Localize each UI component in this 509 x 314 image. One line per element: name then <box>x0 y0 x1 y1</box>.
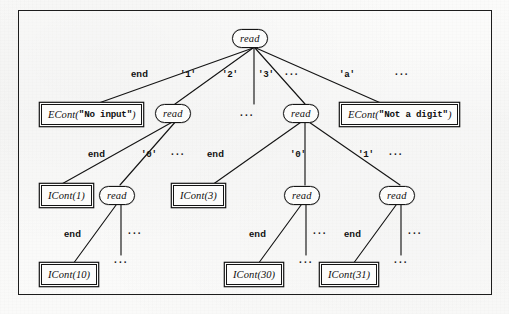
placeholder-below-icont-31: ··· <box>394 257 409 268</box>
icont-1-name: ICont <box>48 190 72 201</box>
icont-3-name: ICont <box>180 190 204 201</box>
placeholder-branch-2: ··· <box>240 110 255 121</box>
econt-not-digit-name: ECont <box>348 109 375 120</box>
edge-label-root-3-dots: ··· <box>285 69 300 80</box>
edge-label-root-1: '1' <box>180 69 196 80</box>
edge-label-l1-0-dots: ··· <box>128 228 143 239</box>
node-read-level2-digit10[interactable]: read <box>99 186 135 205</box>
econt-not-digit-close-paren: ) <box>448 109 452 120</box>
node-icont-30[interactable]: ICont(30) <box>226 264 282 285</box>
figure-canvas: read end '1' '2' '3' ··· 'a' ··· ECont("… <box>0 0 509 314</box>
edge-label-l3-dots: ··· <box>389 149 404 160</box>
node-read-level1-digit3[interactable]: read <box>283 104 319 123</box>
econt-no-input-name: ECont <box>48 109 75 120</box>
edge-label-l3-0-end: end <box>249 228 266 239</box>
econt-not-digit-arg: "Not a digit" <box>379 109 448 120</box>
edge-label-l3-0: '0' <box>290 149 306 160</box>
edge-label-l3-1: '1' <box>358 149 374 160</box>
node-icont-31[interactable]: ICont(31) <box>321 264 377 285</box>
edge-label-root-2: '2' <box>222 69 238 80</box>
icont-30-close-paren: ) <box>271 269 275 280</box>
node-econt-not-a-digit[interactable]: ECont("Not a digit") <box>341 104 458 125</box>
edge-label-l3-1-dots: ··· <box>408 228 423 239</box>
edge-label-l3-1-end: end <box>344 228 361 239</box>
node-read-level2-digit31[interactable]: read <box>379 186 415 205</box>
edge-label-l3-end: end <box>207 148 224 159</box>
icont-1-close-paren: ) <box>81 190 85 201</box>
edge-label-l3-0-dots: ··· <box>313 228 328 239</box>
icont-31-arg: 31 <box>356 269 367 280</box>
edge-label-root-end: end <box>131 68 148 79</box>
icont-30-arg: 30 <box>261 269 272 280</box>
node-read-root[interactable]: read <box>232 29 268 48</box>
edge-label-root-tail-dots: ··· <box>395 69 410 80</box>
edge-label-l1-dots: ··· <box>171 149 186 160</box>
econt-no-input-arg: "No input" <box>79 109 132 120</box>
icont-31-close-paren: ) <box>366 269 370 280</box>
edge-label-l1-end: end <box>88 148 105 159</box>
edge-label-root-a: 'a' <box>339 69 355 80</box>
icont-10-close-paren: ) <box>86 269 90 280</box>
node-read-level2-digit30[interactable]: read <box>284 186 320 205</box>
icont-31-name: ICont <box>328 269 352 280</box>
node-icont-3[interactable]: ICont(3) <box>173 185 224 206</box>
node-econt-no-input[interactable]: ECont("No input") <box>41 104 142 125</box>
node-icont-1[interactable]: ICont(1) <box>41 185 92 206</box>
icont-3-close-paren: ) <box>213 190 217 201</box>
placeholder-below-icont-30: ··· <box>299 257 314 268</box>
econt-no-input-close-paren: ) <box>132 109 136 120</box>
icont-30-name: ICont <box>233 269 257 280</box>
icont-10-name: ICont <box>48 269 72 280</box>
edge-label-l1-0-end: end <box>64 228 81 239</box>
node-read-level1-digit1[interactable]: read <box>155 104 191 123</box>
placeholder-below-icont-10: ··· <box>114 257 129 268</box>
node-icont-10[interactable]: ICont(10) <box>41 264 97 285</box>
edge-label-root-3: '3' <box>258 69 274 80</box>
icont-10-arg: 10 <box>76 269 87 280</box>
edge-label-l1-0: '0' <box>141 149 157 160</box>
